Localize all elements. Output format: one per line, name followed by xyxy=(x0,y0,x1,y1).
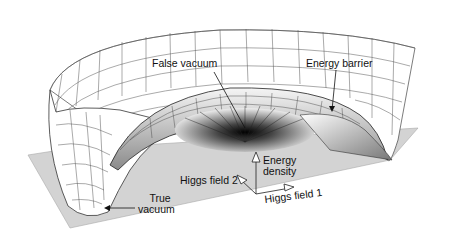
energy-density-label-line2: density xyxy=(263,166,296,177)
higgs-field-2-label: Higgs field 2 xyxy=(180,175,238,186)
true-vacuum-label-line2: vacuum xyxy=(138,204,175,215)
higgs-potential-diagram: False vacuum Energy barrier True vacuum … xyxy=(0,0,456,242)
energy-barrier-label: Energy barrier xyxy=(306,58,373,69)
energy-surface-graphic xyxy=(0,0,456,242)
false-vacuum-label: False vacuum xyxy=(152,58,217,69)
